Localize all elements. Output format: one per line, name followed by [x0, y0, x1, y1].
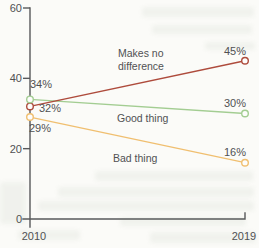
- data-point-marker: [242, 159, 249, 166]
- x-axis-tick-label: 2019: [232, 230, 256, 242]
- chart-figure: 02040602010201932%45%Makes nodifference3…: [0, 0, 259, 248]
- data-point-marker: [242, 110, 249, 117]
- series-name-label: Good thing: [117, 112, 169, 124]
- point-value-label: 16%: [224, 146, 246, 158]
- y-axis-tick-label: 60: [10, 2, 22, 14]
- series-name-label: Makes no: [118, 47, 164, 59]
- data-point-marker: [27, 114, 34, 121]
- line-chart: 02040602010201932%45%Makes nodifference3…: [0, 0, 259, 248]
- data-point-marker: [242, 57, 249, 64]
- point-value-label: 34%: [30, 78, 52, 90]
- x-axis-tick-label: 2010: [22, 230, 46, 242]
- data-point-marker: [27, 96, 34, 103]
- point-value-label: 30%: [224, 97, 246, 109]
- data-point-marker: [27, 103, 34, 110]
- y-axis-tick-label: 40: [10, 72, 22, 84]
- y-axis-tick-label: 20: [10, 143, 22, 155]
- series-name-label: Bad thing: [113, 152, 158, 164]
- point-value-label: 45%: [224, 45, 246, 57]
- point-value-label: 29%: [29, 122, 51, 134]
- series-name-label: difference: [118, 60, 164, 72]
- point-value-label: 32%: [39, 102, 61, 114]
- y-axis-tick-label: 0: [16, 213, 22, 225]
